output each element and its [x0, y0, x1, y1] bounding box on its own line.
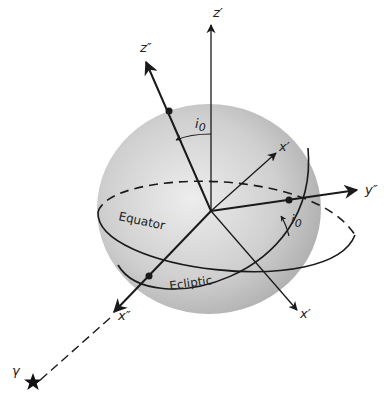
label-x-prime-upper: x′ [278, 139, 290, 154]
coordinate-sphere-diagram: z′ z″ x′ y″ x′ x″ γ i0 i0 Equator Eclipt… [0, 0, 388, 399]
vernal-equinox-line [38, 318, 110, 382]
label-z-double-prime: z″ [139, 40, 152, 55]
label-x-prime-lower: x′ [299, 306, 311, 321]
z-double-prime-node [166, 108, 173, 115]
y-double-prime-node [286, 197, 293, 204]
label-gamma: γ [12, 363, 21, 378]
x-double-prime-node [146, 273, 153, 280]
label-z-prime: z′ [212, 5, 223, 20]
label-y-double-prime: y″ [364, 182, 378, 197]
star-icon [24, 373, 42, 390]
label-x-double-prime: x″ [117, 308, 131, 323]
